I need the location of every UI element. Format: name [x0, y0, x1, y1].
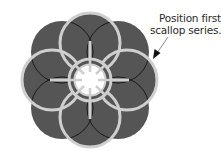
- callout-label: Position first scallop series.: [150, 12, 221, 36]
- callout-line-1: Position first: [150, 12, 221, 24]
- callout-line-2: scallop series.: [150, 24, 221, 36]
- callout-arrow: [153, 37, 168, 59]
